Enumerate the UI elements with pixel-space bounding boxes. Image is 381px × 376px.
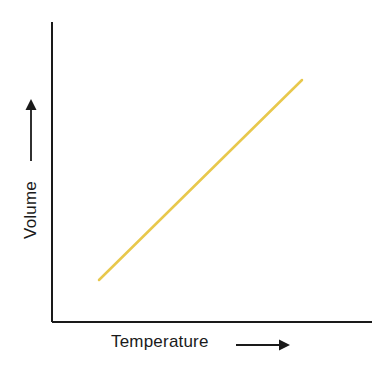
chart-figure: Temperature Volume [0, 0, 381, 376]
x-axis-arrow-icon [236, 340, 290, 351]
x-axis-label: Temperature [111, 333, 209, 350]
data-line-volume-vs-temperature [99, 80, 302, 280]
plot-canvas [0, 0, 381, 376]
y-axis-label: Volume [22, 181, 39, 239]
y-axis-arrow-icon [26, 99, 37, 161]
